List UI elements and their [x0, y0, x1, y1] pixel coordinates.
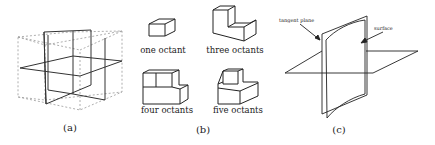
three-octants-shape: [213, 6, 256, 41]
surface-arrowhead: [361, 38, 367, 43]
panel-b-octant-shapes: one octant three octants four octants fi…: [140, 6, 263, 115]
one-octant-cube: [149, 19, 175, 36]
label-surface: surface: [374, 25, 393, 31]
label-tangent-plane: tangent plane: [279, 17, 314, 24]
caption-b: (b): [196, 124, 210, 135]
horizontal-plane: [285, 51, 418, 73]
panel-c-tangent-plane: tangent plane surface: [279, 16, 418, 118]
solid-planes: [20, 30, 122, 104]
label-one-octant: one octant: [140, 45, 186, 55]
curved-surface: [326, 20, 365, 118]
tangent-plane-sheet: [322, 16, 367, 114]
label-three-octants: three octants: [206, 45, 263, 55]
panel-a-octree-planes: [18, 30, 122, 110]
caption-c: (c): [332, 124, 346, 135]
label-five-octants: five octants: [213, 105, 263, 115]
dashed-bounding-cube: [18, 31, 122, 110]
caption-a: (a): [63, 122, 77, 133]
label-four-octants: four octants: [141, 105, 193, 115]
five-octants-shape: [218, 69, 258, 104]
figure-canvas: one octant three octants four octants fi…: [0, 0, 435, 145]
tangent-plane-arrowhead: [315, 35, 320, 40]
four-octants-shape: [143, 70, 188, 104]
